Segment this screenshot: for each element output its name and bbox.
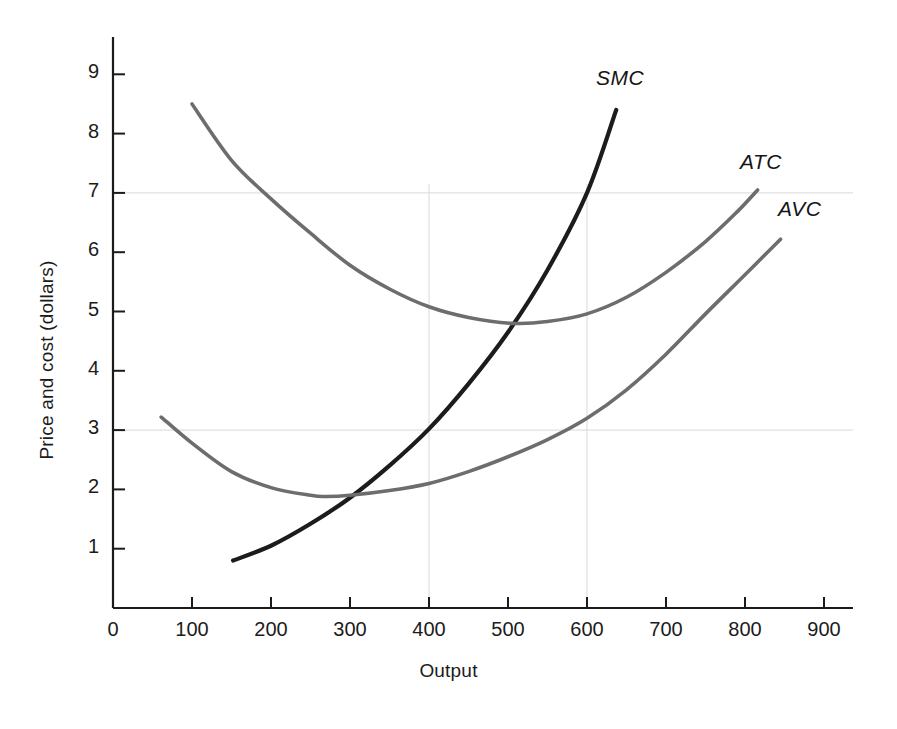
ticks-group: [113, 74, 824, 608]
curves-group: [161, 104, 780, 561]
x-tick-label: 100: [162, 618, 222, 641]
x-tick-label: 600: [557, 618, 617, 641]
y-tick-label: 7: [65, 179, 99, 202]
y-tick-label: 5: [65, 298, 99, 321]
y-tick-label: 1: [65, 535, 99, 558]
y-axis-title: Price and cost (dollars): [18, 0, 40, 200]
gridlines-group: [113, 184, 853, 608]
x-axis-title: Output: [0, 660, 897, 682]
axes-group: [113, 37, 853, 608]
y-tick-label: 4: [65, 357, 99, 380]
chart-figure: Price and cost (dollars) Output 01002003…: [0, 0, 897, 729]
curve-avc: [161, 239, 780, 496]
x-tick-label: 700: [636, 618, 696, 641]
x-tick-label: 500: [478, 618, 538, 641]
x-tick-label: 800: [715, 618, 775, 641]
y-tick-label: 6: [65, 238, 99, 261]
x-tick-label: 400: [399, 618, 459, 641]
x-tick-label: 300: [320, 618, 380, 641]
y-tick-label: 9: [65, 60, 99, 83]
x-tick-label: 200: [241, 618, 301, 641]
curve-atc: [192, 104, 758, 324]
y-tick-label: 2: [65, 475, 99, 498]
curve-label-smc: SMC: [596, 66, 644, 90]
y-tick-label: 8: [65, 120, 99, 143]
y-axis-title-text: Price and cost (dollars): [36, 200, 58, 520]
y-tick-label: 3: [65, 416, 99, 439]
curve-label-avc: AVC: [778, 197, 822, 221]
curve-label-atc: ATC: [740, 150, 782, 174]
x-tick-label: 900: [794, 618, 854, 641]
x-tick-label: 0: [83, 618, 143, 641]
